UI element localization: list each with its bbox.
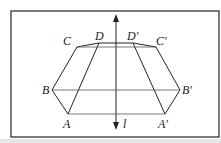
label-D-prime: D′ bbox=[126, 29, 139, 43]
label-D: D bbox=[94, 29, 104, 43]
label-B: B bbox=[42, 83, 50, 97]
figure-frame bbox=[11, 11, 219, 137]
bottom-border-strip bbox=[0, 139, 221, 143]
reflection-diagram: C D D′ C′ B B′ A A′ l bbox=[0, 0, 221, 143]
label-C: C bbox=[63, 34, 72, 48]
label-A: A bbox=[62, 117, 71, 131]
label-B-prime: B′ bbox=[182, 83, 192, 97]
label-C-prime: C′ bbox=[156, 34, 167, 48]
label-A-prime: A′ bbox=[157, 117, 168, 131]
